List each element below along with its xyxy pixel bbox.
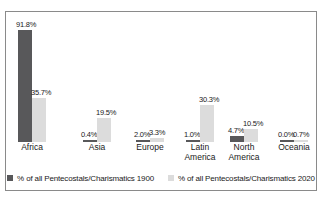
bar-2020[interactable] bbox=[32, 98, 46, 142]
category-label: Latin America bbox=[184, 143, 216, 162]
bar-value-label: 0.7% bbox=[293, 130, 317, 139]
bar-value-label: 10.5% bbox=[243, 119, 267, 128]
legend-label-2020: % of all Pentecostals/Charismatics 2020 bbox=[178, 174, 315, 183]
bar-group-bars: 1.0%30.3% bbox=[184, 12, 216, 142]
legend-item-1900[interactable]: % of all Pentecostals/Charismatics 1900 bbox=[7, 174, 154, 183]
legend-label-1900: % of all Pentecostals/Charismatics 1900 bbox=[17, 174, 154, 183]
legend-swatch-1900-icon bbox=[7, 175, 13, 181]
legend-item-2020[interactable]: % of all Pentecostals/Charismatics 2020 bbox=[168, 174, 315, 183]
bar-group: 0.0%0.7%Oceania bbox=[278, 12, 310, 142]
bar-group-bars: 91.8%35.7% bbox=[16, 12, 48, 142]
bar-value-label: 91.8% bbox=[16, 20, 40, 29]
bar-group: 0.4%19.5%Asia bbox=[81, 12, 113, 142]
bar-value-label: 35.7% bbox=[31, 88, 55, 97]
bar-group-bars: 2.0%3.3% bbox=[134, 12, 166, 142]
bar-group: 91.8%35.7%Africa bbox=[16, 12, 48, 142]
bar-2020[interactable] bbox=[200, 105, 214, 142]
bar-2020[interactable] bbox=[244, 129, 258, 142]
category-label: Asia bbox=[81, 143, 113, 153]
category-label: Africa bbox=[16, 143, 48, 153]
bar-group-bars: 0.4%19.5% bbox=[81, 12, 113, 142]
bar-group: 2.0%3.3%Europe bbox=[134, 12, 166, 142]
bar-value-label: 19.5% bbox=[96, 108, 120, 117]
bar-group: 1.0%30.3%Latin America bbox=[184, 12, 216, 142]
legend-swatch-2020-icon bbox=[168, 175, 174, 181]
category-label: North America bbox=[228, 143, 260, 162]
chart-legend: % of all Pentecostals/Charismatics 1900 … bbox=[6, 168, 316, 188]
category-label: Europe bbox=[134, 143, 166, 153]
plot-area: 91.8%35.7%Africa0.4%19.5%Asia2.0%3.3%Eur… bbox=[6, 12, 316, 142]
bar-value-label: 3.3% bbox=[149, 128, 173, 137]
bar-2020[interactable] bbox=[97, 118, 111, 142]
bar-value-label: 30.3% bbox=[199, 95, 223, 104]
bar-1900[interactable] bbox=[18, 30, 32, 142]
category-label: Oceania bbox=[278, 143, 310, 153]
chart-frame: 91.8%35.7%Africa0.4%19.5%Asia2.0%3.3%Eur… bbox=[5, 11, 317, 191]
bar-group-bars: 4.7%10.5% bbox=[228, 12, 260, 142]
bar-group: 4.7%10.5%North America bbox=[228, 12, 260, 142]
bar-group-bars: 0.0%0.7% bbox=[278, 12, 310, 142]
